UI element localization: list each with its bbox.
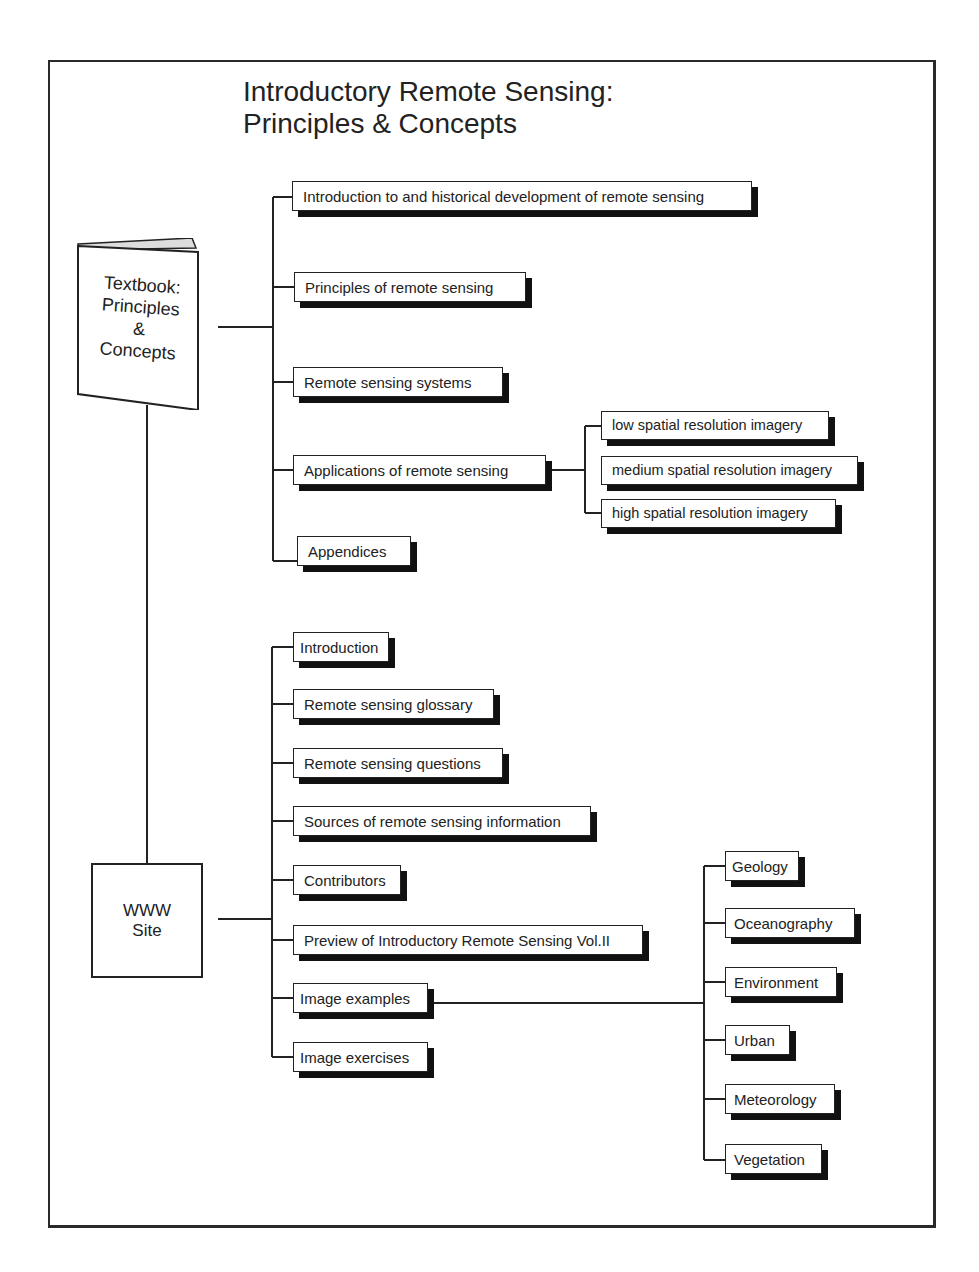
node-principles[interactable]: Principles of remote sensing: [294, 272, 526, 302]
node-vegetation[interactable]: Vegetation: [725, 1144, 822, 1174]
node-systems[interactable]: Remote sensing systems: [293, 367, 503, 397]
node-image-examples[interactable]: Image examples: [293, 983, 428, 1013]
textbook-label: Textbook: Principles & Concepts: [81, 270, 199, 366]
node-oceanography[interactable]: Oceanography: [725, 908, 855, 938]
node-contributors[interactable]: Contributors: [293, 865, 401, 895]
node-introduction[interactable]: Introduction: [293, 632, 389, 662]
www-label-line: WWW: [93, 901, 201, 921]
node-image-exercises[interactable]: Image exercises: [293, 1042, 428, 1072]
node-urban[interactable]: Urban: [725, 1025, 790, 1055]
node-environment[interactable]: Environment: [725, 967, 837, 997]
node-appendices[interactable]: Appendices: [297, 536, 411, 566]
node-glossary[interactable]: Remote sensing glossary: [293, 689, 494, 719]
node-medium-res[interactable]: medium spatial resolution imagery: [601, 456, 858, 485]
node-preview-vol2[interactable]: Preview of Introductory Remote Sensing V…: [293, 925, 643, 955]
node-meteorology[interactable]: Meteorology: [725, 1084, 835, 1114]
node-sources[interactable]: Sources of remote sensing information: [293, 806, 591, 836]
node-geology[interactable]: Geology: [725, 851, 799, 881]
textbook-node[interactable]: Textbook: Principles & Concepts: [76, 238, 200, 410]
node-low-res[interactable]: low spatial resolution imagery: [601, 411, 829, 440]
www-site-node[interactable]: WWW Site: [91, 863, 203, 978]
node-applications[interactable]: Applications of remote sensing: [293, 455, 546, 485]
node-questions[interactable]: Remote sensing questions: [293, 748, 503, 778]
www-site-label: WWW Site: [93, 901, 201, 941]
node-intro-history[interactable]: Introduction to and historical developme…: [292, 181, 752, 211]
node-high-res[interactable]: high spatial resolution imagery: [601, 499, 836, 528]
www-label-line: Site: [93, 921, 201, 941]
